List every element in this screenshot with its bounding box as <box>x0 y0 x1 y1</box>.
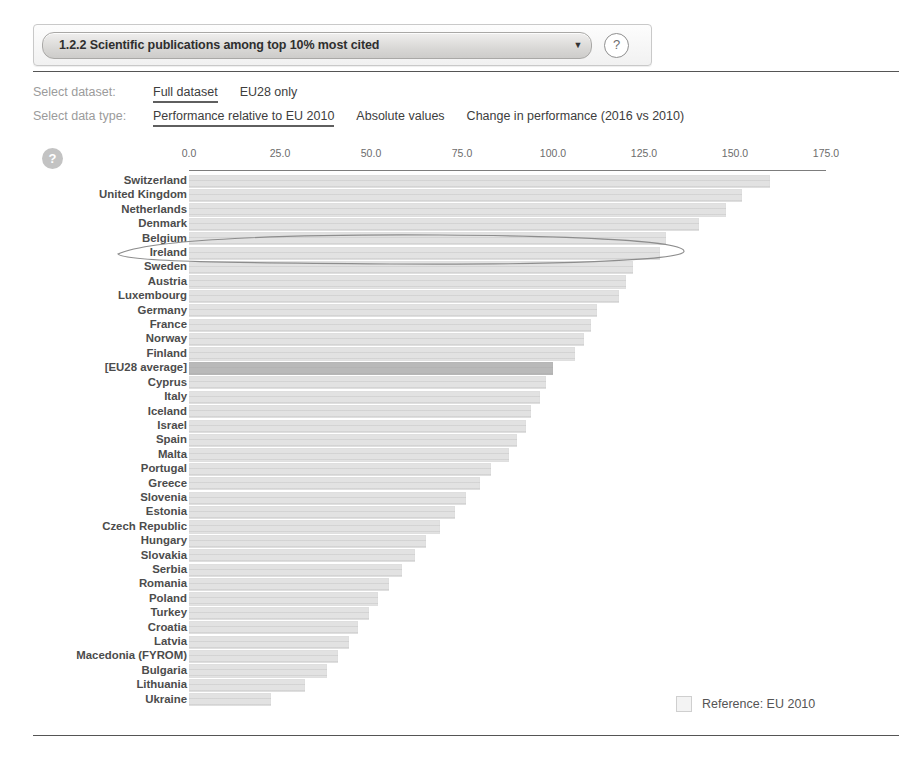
datatype-option-change[interactable]: Change in performance (2016 vs 2010) <box>467 109 685 125</box>
bar[interactable] <box>189 492 466 505</box>
bar[interactable] <box>189 592 378 605</box>
x-axis-tick-labels: 0.025.050.075.0100.0125.0150.0175.0 <box>0 147 900 167</box>
bar-row[interactable]: Poland <box>0 592 900 606</box>
bar[interactable] <box>189 679 305 692</box>
bar[interactable] <box>189 549 415 562</box>
bar[interactable] <box>189 535 426 548</box>
bar-texture <box>189 290 619 303</box>
bar[interactable] <box>189 247 660 260</box>
bar-texture <box>189 232 666 245</box>
bar[interactable] <box>189 189 742 202</box>
bar[interactable] <box>189 232 666 245</box>
bar-texture <box>189 405 531 418</box>
bar-row-label: Spain <box>0 432 187 446</box>
bar[interactable] <box>189 319 591 332</box>
bar-row[interactable]: Germany <box>0 304 900 318</box>
bar-row[interactable]: Malta <box>0 448 900 462</box>
legend: Reference: EU 2010 <box>676 696 815 712</box>
bar-row[interactable]: Austria <box>0 275 900 289</box>
bar-row-label: Austria <box>0 274 187 288</box>
bar[interactable] <box>189 693 271 706</box>
bar[interactable] <box>189 564 402 577</box>
bar-row[interactable]: [EU28 average] <box>0 361 900 375</box>
footer-divider <box>33 735 899 736</box>
bar-row[interactable]: France <box>0 318 900 332</box>
bar-row-label: Germany <box>0 303 187 317</box>
bar[interactable] <box>189 434 517 447</box>
bar[interactable] <box>189 477 480 490</box>
bar-row[interactable]: Belgium <box>0 232 900 246</box>
bar[interactable] <box>189 578 389 591</box>
bar[interactable] <box>189 275 626 288</box>
bar[interactable] <box>189 304 597 317</box>
bar-row[interactable]: Netherlands <box>0 203 900 217</box>
bar[interactable] <box>189 347 575 360</box>
bar-row[interactable]: Sweden <box>0 260 900 274</box>
bar-row-label: Poland <box>0 591 187 605</box>
bar[interactable] <box>189 203 726 216</box>
bar[interactable] <box>189 362 553 375</box>
bar-row[interactable]: Luxembourg <box>0 289 900 303</box>
bar-row[interactable]: Hungary <box>0 534 900 548</box>
bar[interactable] <box>189 218 699 231</box>
bar[interactable] <box>189 448 509 461</box>
bar-row[interactable]: Italy <box>0 390 900 404</box>
bar-texture <box>189 247 660 260</box>
bar[interactable] <box>189 650 338 663</box>
bar-row[interactable]: Denmark <box>0 217 900 231</box>
bar-row[interactable]: United Kingdom <box>0 188 900 202</box>
bar-row[interactable]: Portugal <box>0 462 900 476</box>
bar-row-label: Norway <box>0 331 187 345</box>
bar-row-label: Latvia <box>0 634 187 648</box>
bar[interactable] <box>189 463 491 476</box>
bar-row-label: Slovakia <box>0 548 187 562</box>
bar[interactable] <box>189 376 546 389</box>
bar-row[interactable]: Turkey <box>0 606 900 620</box>
bar[interactable] <box>189 420 526 433</box>
dataset-option-eu28[interactable]: EU28 only <box>240 85 298 101</box>
bar[interactable] <box>189 175 770 188</box>
bar-row[interactable]: Romania <box>0 577 900 591</box>
bar[interactable] <box>189 261 633 274</box>
bar-row[interactable]: Bulgaria <box>0 664 900 678</box>
bar[interactable] <box>189 520 440 533</box>
bar[interactable] <box>189 506 455 519</box>
bar[interactable] <box>189 621 358 634</box>
bar-row-label: Iceland <box>0 404 187 418</box>
bar[interactable] <box>189 405 531 418</box>
bar-row[interactable]: Finland <box>0 347 900 361</box>
bar[interactable] <box>189 607 369 620</box>
bar-row[interactable]: Greece <box>0 477 900 491</box>
bar-texture <box>189 578 389 591</box>
chart-area: ? 0.025.050.075.0100.0125.0150.0175.0 Sw… <box>0 140 900 740</box>
bar-row[interactable]: Cyprus <box>0 376 900 390</box>
bar-row[interactable]: Slovenia <box>0 491 900 505</box>
datatype-option-relative[interactable]: Performance relative to EU 2010 <box>153 109 334 127</box>
bar-row[interactable]: Lithuania <box>0 678 900 692</box>
bar-row[interactable]: Macedonia (FYROM) <box>0 649 900 663</box>
bar-row[interactable]: Israel <box>0 419 900 433</box>
bar[interactable] <box>189 664 327 677</box>
bar-row[interactable]: Slovakia <box>0 549 900 563</box>
bar-row[interactable]: Estonia <box>0 505 900 519</box>
datatype-option-absolute[interactable]: Absolute values <box>356 109 444 125</box>
bar-row[interactable]: Iceland <box>0 405 900 419</box>
indicator-dropdown[interactable]: 1.2.2 Scientific publications among top … <box>42 32 592 59</box>
bar-row[interactable]: Latvia <box>0 635 900 649</box>
bar-row[interactable]: Czech Republic <box>0 520 900 534</box>
bar[interactable] <box>189 636 349 649</box>
dataset-option-full[interactable]: Full dataset <box>153 85 218 103</box>
bar-row[interactable]: Croatia <box>0 621 900 635</box>
bar-row-label: Macedonia (FYROM) <box>0 648 187 662</box>
help-icon[interactable]: ? <box>604 33 629 58</box>
bar-row-label: Romania <box>0 576 187 590</box>
bar[interactable] <box>189 333 584 346</box>
bar[interactable] <box>189 290 619 303</box>
bar-row[interactable]: Switzerland <box>0 174 900 188</box>
bar-row[interactable]: Serbia <box>0 563 900 577</box>
bar-row[interactable]: Ireland <box>0 246 900 260</box>
chevron-down-icon[interactable]: ▼ <box>565 40 591 50</box>
bar-row[interactable]: Spain <box>0 433 900 447</box>
bar-row[interactable]: Norway <box>0 332 900 346</box>
bar[interactable] <box>189 391 540 404</box>
